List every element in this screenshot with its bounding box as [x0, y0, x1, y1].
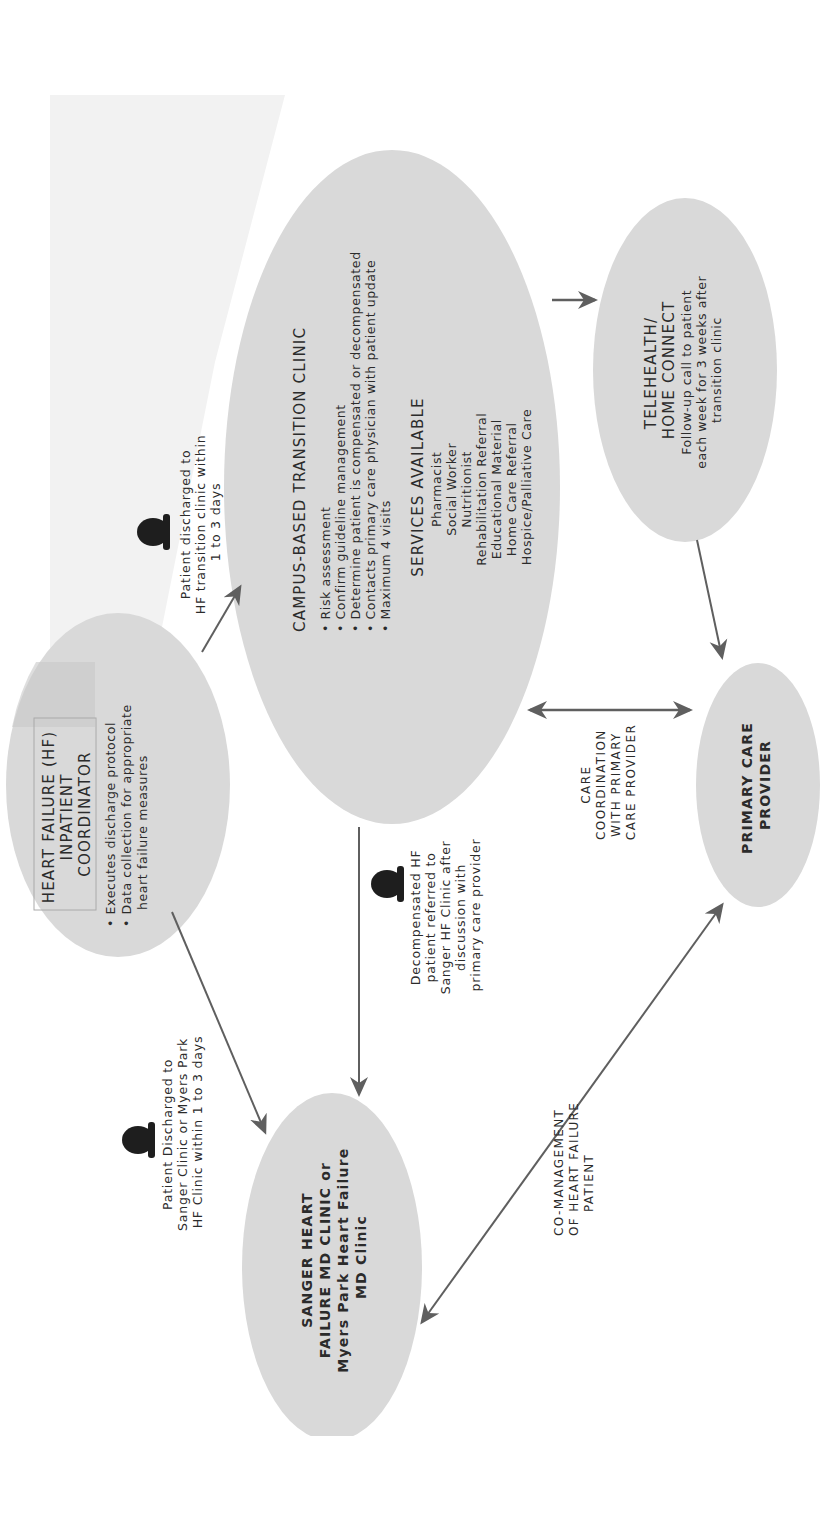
- node-hf-inpatient-coordinator: HEART FAILURE (HF) INPATIENT COORDINATOR…: [6, 613, 230, 957]
- label-co-management: CO-MANAGEMENT OF HEART FAILURE PATIENT: [552, 1096, 596, 1236]
- node-primary-care-provider: PRIMARY CARE PROVIDER: [696, 663, 820, 907]
- patient-icon: [122, 1122, 155, 1158]
- label-care-coordination: CARE COORDINATION WITH PRIMARY CARE PROV…: [579, 724, 638, 840]
- label-discharged-to-sanger: Patient Discharged to Sanger Clinic or M…: [160, 1033, 205, 1231]
- patient-icon: [371, 866, 404, 902]
- label-decompensated-referral: Decompensated HF patient referred to San…: [408, 836, 483, 995]
- services-available-title: SERVICES AVAILABLE: [409, 397, 427, 577]
- diagram-canvas: HEART FAILURE (HF) INPATIENT COORDINATOR…: [0, 0, 825, 1532]
- node-sanger-hf-md-clinic: SANGER HEART FAILURE MD CLINIC or Myers …: [230, 1093, 440, 1452]
- node-campus-transition-clinic: CAMPUS-BASED TRANSITION CLINIC • Risk as…: [224, 150, 560, 824]
- node-telehealth-home-connect: TELEHEALTH/ HOME CONNECT Follow-up call …: [593, 198, 777, 542]
- transition-clinic-title: CAMPUS-BASED TRANSITION CLINIC: [291, 327, 309, 632]
- telehealth-title: TELEHEALTH/ HOME CONNECT: [642, 301, 678, 440]
- label-discharged-to-transition: Patient discharged to HF transition clin…: [178, 430, 223, 614]
- arrow-telehealth-to-primary-care: [697, 540, 722, 657]
